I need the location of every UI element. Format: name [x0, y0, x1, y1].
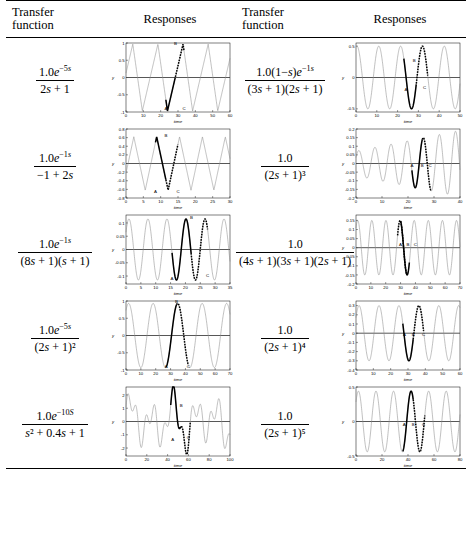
y-axis-label: y [111, 247, 115, 252]
x-tick-label: 50 [198, 371, 203, 376]
annotation-c: C [422, 333, 425, 338]
annotation-c: C [187, 365, 190, 370]
y-tick-label: 0.05 [346, 153, 355, 158]
annotation-b: B [180, 403, 183, 408]
x-tick-label: 35 [228, 285, 233, 290]
y-tick-label: 0.2 [349, 127, 355, 132]
x-axis-label: time [174, 119, 183, 124]
x-tick-label: 20 [383, 285, 388, 290]
y-tick-label: 0.05 [346, 236, 355, 241]
x-tick-label: 20 [153, 371, 158, 376]
x-tick-label: 0 [125, 285, 128, 290]
x-tick-label: 10 [158, 199, 163, 204]
y-tick-label: 0.1 [119, 221, 125, 226]
y-tick-label: -0.2 [117, 170, 125, 175]
y-tick-label: -0.2 [347, 349, 355, 354]
y-axis-label: y [341, 75, 345, 80]
x-tick-label: 70 [228, 371, 233, 376]
y-axis-label: y [111, 333, 115, 338]
x-tick-label: 10 [153, 285, 158, 290]
y-tick-label: -0.1 [117, 274, 125, 279]
y-tick-label: 0 [122, 333, 125, 338]
table-row: 1.0e−10Ss² + 0.4s + 1020406080100-2-1012… [6, 382, 466, 469]
table-row: 1.0e−1s−1 + 2s051015202530-0.8-0.6-0.4-0… [6, 124, 466, 210]
response-cell-right: 01020304050-0.500.5ABCytime [334, 38, 466, 125]
x-tick-label: 50 [458, 113, 463, 118]
y-axis-label: y [341, 161, 345, 166]
response-cell-right: 010203040506070-0.2-0.15-0.1-0.0500.050.… [334, 210, 466, 296]
y-tick-label: 0 [122, 419, 125, 424]
y-tick-label: 0 [352, 161, 355, 166]
response-plot: 0102030405060-0.4-0.3-0.2-0.100.10.20.3A… [334, 296, 464, 382]
response-cell-right: 010203040-0.2-0.15-0.1-0.0500.050.10.150… [334, 124, 466, 210]
transfer-function-cell-left: 1.0e−1s−1 + 2s [6, 124, 104, 210]
y-tick-label: 0.6 [119, 135, 125, 140]
x-tick-label: 10 [374, 113, 379, 118]
chart-container: 01020304050-0.500.5ABCytime [334, 38, 466, 124]
chart-container: 010203040-0.2-0.15-0.1-0.0500.050.10.150… [334, 124, 466, 210]
x-tick-label: 25 [198, 285, 203, 290]
header-tf2-line1: Transfer [242, 5, 284, 19]
annotation-a: A [164, 107, 167, 112]
x-axis-label: time [404, 377, 413, 382]
x-tick-label: 100 [227, 457, 235, 462]
y-tick-label: -0.3 [347, 359, 355, 364]
transfer-function-cell-left: 1.0e−1s(8s + 1)(s + 1) [6, 210, 104, 296]
transfer-function-cell-right: 1.0(2s + 1)⁴ [236, 296, 334, 382]
y-tick-label: -0.05 [115, 261, 125, 266]
response-cell-left: 020406080100-2-1012ABCytime [104, 382, 236, 469]
y-axis-label: y [111, 419, 115, 424]
x-tick-label: 20 [144, 457, 149, 462]
y-tick-label: -0.15 [345, 273, 355, 278]
annotation-c: C [429, 164, 432, 169]
x-tick-label: 15 [176, 199, 181, 204]
annotation-b: B [412, 422, 415, 427]
annotation-a: A [171, 276, 174, 281]
x-tick-label: 60 [186, 457, 191, 462]
annotation-b: B [412, 333, 415, 338]
y-axis-label: y [111, 75, 115, 80]
response-cell-right: 020406080-0.500.5ABCytime [334, 382, 466, 469]
x-tick-label: 0 [125, 457, 128, 462]
y-tick-label: -0.05 [345, 255, 355, 260]
header-responses-2: Responses [334, 1, 466, 38]
transfer-function-table: Transfer function Responses Transfer fun… [6, 0, 466, 469]
x-tick-label: 30 [406, 371, 411, 376]
y-tick-label: 1 [122, 406, 125, 411]
header-tf-line2: function [12, 18, 54, 32]
y-tick-label: -0.5 [347, 454, 355, 459]
response-plot: 05101520253035-0.1-0.0500.050.1ABCytime [104, 210, 234, 296]
y-tick-label: -0.1 [347, 264, 355, 269]
x-tick-label: 60 [213, 371, 218, 376]
x-tick-label: 5 [142, 199, 145, 204]
transfer-function-cell-right: 1.0(4s + 1)(3s + 1)(2s + 1) [236, 210, 334, 296]
y-axis-label: y [111, 161, 115, 166]
response-plot: 01020304050-0.500.5ABCytime [334, 38, 464, 124]
x-axis-label: time [404, 291, 413, 296]
x-tick-label: 60 [228, 113, 233, 118]
x-tick-label: 0 [125, 113, 128, 118]
annotation-a: A [404, 88, 407, 93]
response-plot: 051015202530-0.8-0.6-0.4-0.200.20.40.60.… [104, 124, 234, 210]
transfer-function-cell-left: 1.0e−5s(2s + 1)² [6, 296, 104, 382]
annotation-a: A [171, 438, 174, 443]
x-tick-label: 20 [158, 113, 163, 118]
annotation-a: A [154, 189, 157, 194]
x-tick-label: 0 [355, 371, 358, 376]
annotation-b: B [421, 164, 424, 169]
x-tick-label: 15 [168, 285, 173, 290]
y-tick-label: 0.5 [349, 385, 355, 390]
x-tick-label: 20 [193, 199, 198, 204]
chart-container: 010203040506070-1-0.500.51ABCytime [104, 296, 236, 382]
x-tick-label: 70 [458, 285, 463, 290]
x-tick-label: 40 [423, 371, 428, 376]
x-tick-label: 10 [380, 199, 385, 204]
y-tick-label: -0.5 [347, 107, 355, 112]
y-tick-label: -2 [121, 446, 125, 451]
x-tick-label: 10 [371, 371, 376, 376]
x-axis-label: time [174, 291, 183, 296]
y-tick-label: 0.5 [119, 316, 125, 321]
x-tick-label: 60 [443, 285, 448, 290]
chart-container: 0102030405060-1-0.500.51ABCytime [104, 38, 236, 124]
transfer-function-cell-left: 1.0e−10Ss² + 0.4s + 1 [6, 382, 104, 469]
